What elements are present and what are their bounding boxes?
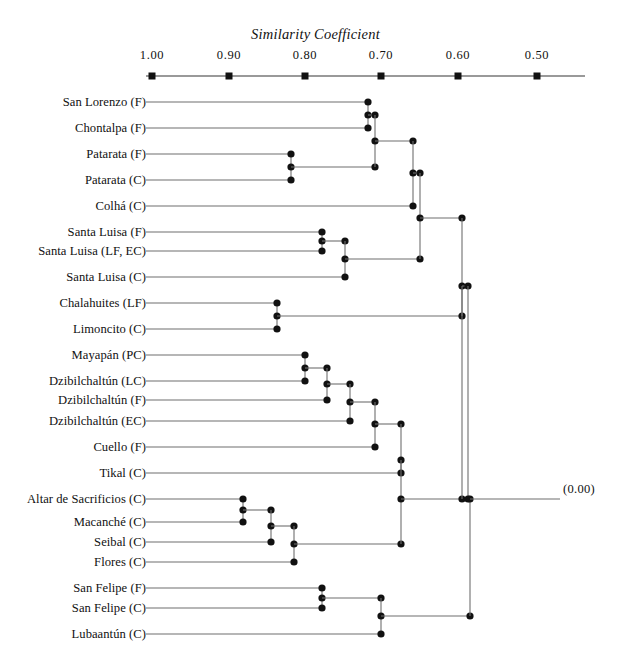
axis-tick-mark	[226, 73, 233, 80]
axis-tick-mark	[149, 73, 156, 80]
dendrogram-node	[273, 325, 280, 332]
dendrogram-node	[346, 417, 353, 424]
dendrogram-node	[267, 538, 274, 545]
dendrogram-figure: Similarity Coefficient 1.000.900.800.700…	[0, 0, 631, 664]
dendrogram-node	[318, 228, 325, 235]
dendrogram-node	[364, 124, 371, 131]
dendrogram-node	[409, 202, 416, 209]
dendrogram-node	[273, 299, 280, 306]
axis-tick-mark	[302, 73, 309, 80]
dendrogram-node	[377, 630, 384, 637]
axis-tick-mark	[534, 73, 541, 80]
dendrogram-node	[318, 247, 325, 254]
dendrogram-plot	[0, 0, 631, 664]
dendrogram-node	[371, 443, 378, 450]
dendrogram-node	[239, 518, 246, 525]
dendrogram-node	[301, 377, 308, 384]
axis-tick-mark	[378, 73, 385, 80]
axis-tick-mark	[455, 73, 462, 80]
dendrogram-node	[287, 176, 294, 183]
dendrogram-node	[239, 495, 246, 502]
dendrogram-node	[287, 150, 294, 157]
dendrogram-node	[290, 558, 297, 565]
dendrogram-node	[301, 351, 308, 358]
dendrogram-node	[318, 604, 325, 611]
dendrogram-node	[341, 273, 348, 280]
dendrogram-node	[323, 396, 330, 403]
dendrogram-node	[318, 584, 325, 591]
dendrogram-node	[364, 98, 371, 105]
